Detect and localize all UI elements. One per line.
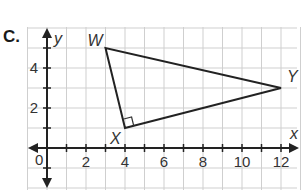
vertex-label-w: W	[88, 32, 105, 49]
y-axis-label: y	[53, 30, 63, 47]
x-tick-label: 4	[121, 153, 129, 170]
x-tick-label: 8	[199, 153, 207, 170]
x-axis-label: x	[289, 125, 299, 142]
coordinate-plane: 2468101224 x y 0 WXY	[0, 0, 308, 193]
tick-labels: 2468101224	[30, 59, 290, 170]
x-tick-label: 12	[273, 153, 290, 170]
x-axis-right-arrow-icon	[289, 143, 299, 153]
vertex-labels: WXY	[88, 32, 300, 147]
y-axis-up-arrow-icon	[42, 28, 52, 38]
y-tick-label: 4	[30, 59, 38, 76]
y-axis-down-arrow-icon	[42, 178, 52, 188]
x-tick-label: 2	[82, 153, 90, 170]
x-tick-label: 6	[160, 153, 168, 170]
y-tick-label: 2	[30, 99, 38, 116]
x-tick-label: 10	[234, 153, 251, 170]
origin-label: 0	[35, 151, 43, 168]
vertex-label-y: Y	[287, 68, 299, 85]
vertex-label-x: X	[109, 130, 122, 147]
